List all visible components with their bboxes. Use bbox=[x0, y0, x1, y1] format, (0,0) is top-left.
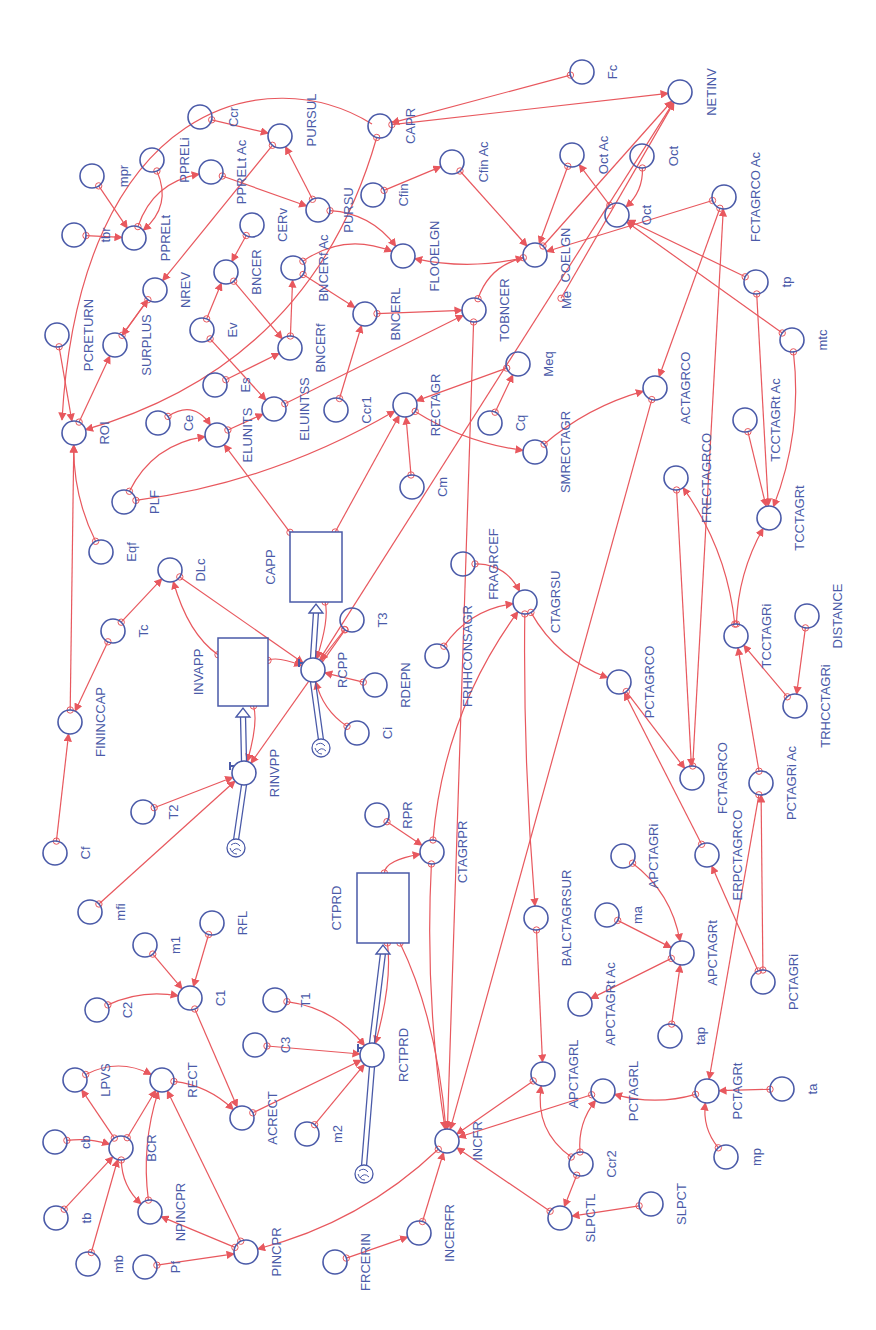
node-label-c3: C3 bbox=[278, 1037, 293, 1054]
causal-link-frectagrco-to-fctagrco bbox=[677, 490, 692, 766]
aux-node-erpctagrco[interactable] bbox=[695, 843, 719, 867]
aux-node-ccr1[interactable] bbox=[324, 398, 348, 422]
aux-node-c3[interactable] bbox=[243, 1033, 267, 1057]
aux-node-apctagrt-ac[interactable] bbox=[568, 992, 592, 1016]
aux-node-cq[interactable] bbox=[478, 411, 502, 435]
stock-capp[interactable] bbox=[290, 532, 342, 602]
aux-node-tap[interactable] bbox=[658, 1024, 682, 1048]
aux-node-rdepn[interactable] bbox=[363, 673, 387, 697]
flow-valve-rcpp[interactable] bbox=[301, 658, 325, 682]
aux-node-coelgn[interactable] bbox=[523, 243, 547, 267]
aux-node-rectagr[interactable] bbox=[393, 393, 417, 417]
aux-node-apctagrt[interactable] bbox=[670, 941, 694, 965]
aux-node-dlc[interactable] bbox=[158, 558, 182, 582]
causal-link-eqf-to-roi bbox=[74, 445, 96, 541]
aux-node-pprelt[interactable] bbox=[122, 226, 146, 250]
aux-node-pprelt-ac[interactable] bbox=[199, 160, 223, 184]
aux-node-apctagrl[interactable] bbox=[531, 1062, 555, 1086]
aux-node-ev[interactable] bbox=[190, 318, 214, 342]
node-label-erpctagrco: ERPCTAGRCO bbox=[730, 810, 745, 901]
aux-node-netinv[interactable] bbox=[668, 80, 692, 104]
aux-node-cf[interactable] bbox=[43, 841, 67, 865]
aux-node-actagrco[interactable] bbox=[643, 376, 667, 400]
stock-ctprd[interactable] bbox=[357, 873, 409, 943]
aux-node-elunits[interactable] bbox=[205, 423, 229, 447]
aux-node-distance[interactable] bbox=[795, 604, 819, 628]
aux-node-t2[interactable] bbox=[131, 800, 155, 824]
aux-node-ppreli[interactable] bbox=[140, 148, 164, 172]
aux-node-t1[interactable] bbox=[263, 988, 287, 1012]
node-label-ccr2: Ccr2 bbox=[604, 1150, 619, 1177]
aux-node-tcctagrt-ac[interactable] bbox=[733, 408, 757, 432]
aux-node-mpr[interactable] bbox=[80, 164, 104, 188]
node-label-fctagrco-ac: FCTAGRCO Ac bbox=[748, 151, 763, 242]
aux-node-pctagrt[interactable] bbox=[695, 1079, 719, 1103]
aux-node-rpr[interactable] bbox=[365, 803, 389, 827]
aux-node-rect[interactable] bbox=[150, 1068, 174, 1092]
aux-node-ccr[interactable] bbox=[188, 105, 212, 129]
aux-node-pincpr[interactable] bbox=[234, 1240, 258, 1264]
aux-node-m2[interactable] bbox=[295, 1122, 319, 1146]
aux-node-pctagri-ac[interactable] bbox=[749, 771, 773, 795]
aux-node-cerv[interactable] bbox=[240, 213, 264, 237]
aux-node-flooelgn[interactable] bbox=[391, 244, 415, 268]
aux-node-mfi[interactable] bbox=[78, 900, 102, 924]
aux-node-cm[interactable] bbox=[400, 475, 424, 499]
aux-node-ccr2[interactable] bbox=[569, 1152, 593, 1176]
aux-node-m1[interactable] bbox=[133, 933, 157, 957]
aux-node-slpctl[interactable] bbox=[548, 1206, 572, 1230]
aux-node-c2[interactable] bbox=[85, 998, 109, 1022]
aux-node-ce[interactable] bbox=[146, 411, 170, 435]
causal-link-capr-to-netinv bbox=[392, 93, 668, 124]
aux-node-slpct[interactable] bbox=[639, 1192, 663, 1216]
flow-valve-rinvpp[interactable] bbox=[232, 761, 256, 785]
aux-node-incfr[interactable] bbox=[435, 1129, 459, 1153]
aux-node-fc[interactable] bbox=[570, 60, 594, 84]
aux-node-pctagrl[interactable] bbox=[591, 1079, 615, 1103]
stock-invapp[interactable] bbox=[218, 638, 268, 706]
aux-node-fctagrco-ac[interactable] bbox=[712, 185, 736, 209]
node-label-pprelt-ac: PPRELt Ac bbox=[234, 139, 249, 204]
aux-node-apctagri[interactable] bbox=[611, 844, 635, 868]
aux-node-pf[interactable] bbox=[133, 1255, 157, 1279]
aux-node-es[interactable] bbox=[203, 373, 227, 397]
aux-node-surplus[interactable] bbox=[103, 333, 127, 357]
aux-node-ma[interactable] bbox=[595, 903, 619, 927]
aux-node-cfin[interactable] bbox=[361, 183, 385, 207]
causal-link-mfi-to-rinvpp bbox=[99, 781, 235, 904]
aux-node-mb[interactable] bbox=[76, 1252, 100, 1276]
aux-node-frcerin[interactable] bbox=[323, 1250, 347, 1274]
aux-node-bncerf-ac[interactable] bbox=[281, 256, 305, 280]
aux-node-incerfr[interactable] bbox=[407, 1221, 431, 1245]
aux-node-bncer[interactable] bbox=[214, 260, 238, 284]
aux-node-ci[interactable] bbox=[345, 721, 369, 745]
aux-node-mp[interactable] bbox=[714, 1145, 738, 1169]
aux-node-cfin-ac[interactable] bbox=[440, 150, 464, 174]
aux-node-tc[interactable] bbox=[101, 619, 125, 643]
aux-node-roi[interactable] bbox=[62, 421, 86, 445]
aux-node-mtc[interactable] bbox=[780, 328, 804, 352]
aux-node-frhhconsagr[interactable] bbox=[425, 644, 449, 668]
aux-node-pctagrco[interactable] bbox=[607, 670, 631, 694]
aux-node-t3[interactable] bbox=[340, 608, 364, 632]
aux-node-nrev[interactable] bbox=[143, 278, 167, 302]
aux-node-cb[interactable] bbox=[43, 1130, 67, 1154]
flow-valve-rctprd[interactable] bbox=[360, 1043, 384, 1067]
aux-node-eluintss[interactable] bbox=[262, 397, 286, 421]
aux-node-plf[interactable] bbox=[112, 490, 136, 514]
aux-node-smrectagr[interactable] bbox=[523, 440, 547, 464]
aux-node-tcctagrt[interactable] bbox=[757, 506, 781, 530]
aux-node-pcreturn[interactable] bbox=[45, 323, 69, 347]
aux-node-capr[interactable] bbox=[368, 114, 392, 138]
aux-node-tb[interactable] bbox=[44, 1206, 68, 1230]
aux-node-trhcctagri[interactable] bbox=[783, 694, 807, 718]
aux-node-pursul[interactable] bbox=[268, 124, 292, 148]
aux-node-lpvs[interactable] bbox=[63, 1068, 87, 1092]
aux-node-acrect[interactable] bbox=[230, 1106, 254, 1130]
aux-node-rfl[interactable] bbox=[200, 911, 224, 935]
aux-node-meq[interactable] bbox=[506, 352, 530, 376]
aux-node-npincpr[interactable] bbox=[138, 1200, 162, 1224]
aux-node-eqf[interactable] bbox=[89, 540, 113, 564]
aux-node-c1[interactable] bbox=[178, 986, 202, 1010]
aux-node-oct-ac[interactable] bbox=[560, 143, 584, 167]
